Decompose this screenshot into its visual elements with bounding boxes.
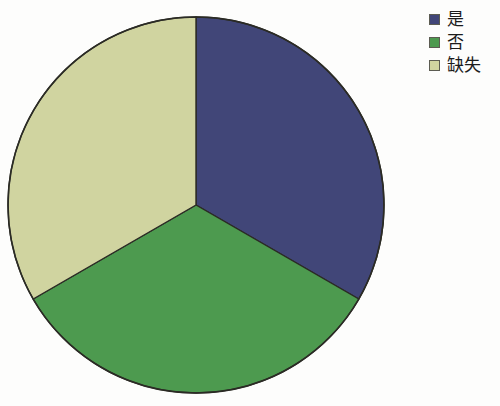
pie-slices xyxy=(8,17,384,393)
legend-label-yes: 是 xyxy=(447,11,464,28)
legend-label-missing: 缺失 xyxy=(447,57,481,74)
legend-swatch-yes xyxy=(429,14,440,25)
legend-item-missing[interactable]: 缺失 xyxy=(429,54,500,77)
pie-chart-figure: 是 否 缺失 xyxy=(0,0,500,406)
legend-swatch-missing xyxy=(429,60,440,71)
legend-item-no[interactable]: 否 xyxy=(429,31,500,54)
legend-item-yes[interactable]: 是 xyxy=(429,8,500,31)
legend: 是 否 缺失 xyxy=(429,8,500,77)
legend-swatch-no xyxy=(429,37,440,48)
legend-label-no: 否 xyxy=(447,34,464,51)
pie-chart-canvas xyxy=(0,0,500,406)
